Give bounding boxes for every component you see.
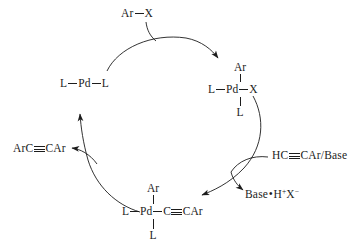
product-output-arrow bbox=[72, 148, 97, 164]
aryl-alkynyl-pd-main-row: LPdCCAr bbox=[122, 206, 203, 218]
aryl-halide-bond bbox=[135, 13, 144, 14]
aryl-pd-halide-left-ligand-label: L bbox=[208, 83, 215, 95]
pd0-metal-label: Pd bbox=[78, 77, 91, 89]
aryl-alkynyl-pd-triple-bond-icon bbox=[171, 207, 182, 216]
aryl-halide-feed-line bbox=[146, 22, 156, 41]
pd0-left-ligand-label: L bbox=[60, 77, 67, 89]
catalytic-cycle-diagram: ArX LPdL Ar LPdX L Ar LPdCCAr L HCCAr/Ba… bbox=[0, 0, 349, 252]
alkyne-reagent-head-label: HC bbox=[272, 149, 288, 161]
aryl-alkynyl-pd-top-bond bbox=[153, 195, 154, 204]
oxidative-addition-arrow bbox=[107, 37, 218, 71]
byproduct-halide-label: X bbox=[286, 188, 295, 200]
aryl-alkynyl-pd-left-bond bbox=[130, 211, 139, 212]
aryl-alkynyl-palladium-complex: Ar LPdCCAr L bbox=[122, 183, 232, 245]
diaryl-alkyne-product: ArCCAr bbox=[13, 143, 66, 155]
product-tail-label: CAr bbox=[45, 142, 65, 154]
byproduct-hydrogen-label: H bbox=[273, 188, 282, 200]
pd0-right-bond bbox=[92, 83, 101, 84]
alkyne-reagent-triple-bond-icon bbox=[289, 151, 300, 160]
aryl-pd-halide-main-row: LPdX bbox=[208, 84, 258, 96]
base-hydrohalide-byproduct: Base•H+X− bbox=[245, 188, 299, 201]
aryl-halide-ar-label: Ar bbox=[121, 7, 134, 19]
pd0-complex: LPdL bbox=[60, 78, 109, 90]
aryl-pd-halide-top-bond bbox=[240, 74, 241, 82]
aryl-pd-halide-metal-label: Pd bbox=[226, 83, 238, 95]
aryl-pd-halide-left-bond bbox=[216, 89, 225, 90]
aryl-pd-halide-x-label: X bbox=[249, 83, 257, 95]
aryl-alkynyl-pd-bottom-bond bbox=[153, 219, 154, 229]
aryl-alkynyl-pd-carbon-label: C bbox=[163, 205, 171, 217]
alkyne-reagent-tail-label: CAr/Base bbox=[300, 149, 347, 161]
aryl-alkynyl-pd-right-bond bbox=[153, 211, 162, 212]
aryl-alkynyl-pd-alkyne-tail-label: CAr bbox=[183, 205, 203, 217]
product-head-label: ArC bbox=[13, 142, 33, 154]
pd0-right-ligand-label: L bbox=[102, 77, 109, 89]
pd0-left-bond bbox=[68, 83, 77, 84]
aryl-pd-halide-bottom-bond bbox=[240, 97, 241, 106]
terminal-alkyne-base-reagent: HCCAr/Base bbox=[272, 150, 347, 162]
byproduct-base-label: Base bbox=[245, 188, 268, 200]
aryl-halide-x-label: X bbox=[145, 7, 154, 19]
product-triple-bond-icon bbox=[34, 144, 45, 153]
aryl-pd-halide-top-ar-label: Ar bbox=[230, 62, 250, 74]
aryl-pd-halide-right-bond bbox=[239, 89, 248, 90]
aryl-pd-halide-bottom-ligand-label: L bbox=[230, 107, 250, 119]
aryl-halide-reagent: ArX bbox=[121, 8, 153, 20]
aryl-palladium-halide-complex: Ar LPdX L bbox=[208, 62, 286, 120]
aryl-alkynyl-pd-top-ar-label: Ar bbox=[143, 183, 163, 195]
aryl-alkynyl-pd-metal-label: Pd bbox=[140, 205, 152, 217]
aryl-alkynyl-pd-bottom-ligand-label: L bbox=[143, 230, 163, 242]
aryl-alkynyl-pd-left-ligand-label: L bbox=[122, 205, 129, 217]
byproduct-halide-charge-label: − bbox=[295, 187, 299, 196]
alkyne-input-line bbox=[231, 157, 268, 172]
